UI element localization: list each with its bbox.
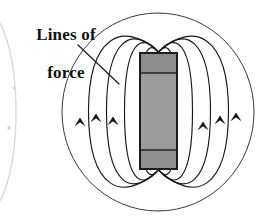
label-line-2: force: [47, 63, 85, 82]
bar-magnet-field-figure: Lines of force: [0, 0, 271, 223]
lines-of-force-label: Lines of force: [14, 6, 118, 82]
label-line-1: Lines of: [36, 25, 96, 44]
